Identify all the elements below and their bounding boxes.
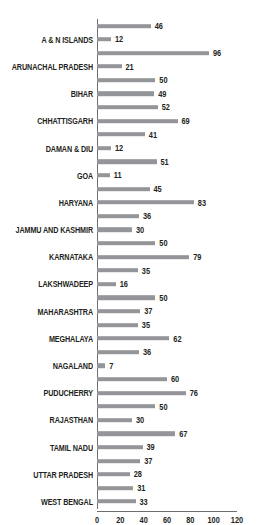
bar-row: 51	[0, 155, 259, 169]
bar	[97, 214, 139, 218]
category-label: KARNATAKA	[0, 252, 93, 261]
bar	[97, 187, 150, 191]
bar-group: 31	[97, 481, 145, 495]
bar-group: 49	[97, 87, 166, 101]
bar	[97, 499, 136, 503]
bar-row: GOA11	[0, 169, 259, 183]
bar	[97, 296, 155, 300]
bar-group: 33	[97, 495, 148, 509]
bar	[97, 309, 140, 313]
bar-value-label: 16	[120, 280, 128, 289]
bar-group: 51	[97, 155, 169, 169]
x-tick-label: 80	[186, 516, 194, 525]
category-label: ARUNACHAL PRADESH	[0, 62, 93, 71]
x-axis: 020406080100120	[0, 511, 259, 525]
bar-row: LAKSHWADEEP16	[0, 277, 259, 291]
bar-row: 96	[0, 46, 259, 60]
bar	[97, 228, 132, 232]
bar-row: HARYANA83	[0, 196, 259, 210]
bar-row: 52	[0, 101, 259, 115]
bar-row: WEST BENGAL33	[0, 495, 259, 509]
bar	[97, 173, 110, 177]
bar-value-label: 50	[159, 293, 167, 302]
bar	[97, 472, 130, 476]
bar-value-label: 33	[140, 497, 148, 506]
bar	[97, 37, 111, 41]
bar-row: 50	[0, 400, 259, 414]
bar-value-label: 60	[171, 375, 179, 384]
bar-group: 7	[97, 359, 113, 373]
bar-group: 35	[97, 318, 150, 332]
bar	[97, 445, 143, 449]
bar-group: 12	[97, 141, 123, 155]
category-label: JAMMU AND KASHMIR	[0, 225, 93, 234]
bar-value-label: 41	[149, 130, 157, 139]
bar-value-label: 37	[144, 456, 152, 465]
bar-value-label: 62	[173, 334, 181, 343]
bar-row: RAJASTHAN30	[0, 413, 259, 427]
bar-group: 76	[97, 386, 198, 400]
bar-row: JAMMU AND KASHMIR30	[0, 223, 259, 237]
bar-row: 45	[0, 182, 259, 196]
bar-group: 67	[97, 427, 187, 441]
category-label: BIHAR	[0, 89, 93, 98]
bar-row: DAMAN & DIU12	[0, 141, 259, 155]
bar-row: ARUNACHAL PRADESH21	[0, 60, 259, 74]
bar-value-label: 49	[158, 89, 166, 98]
bar-group: 36	[97, 345, 151, 359]
bar-value-label: 39	[147, 443, 155, 452]
category-label: RAJASTHAN	[0, 416, 93, 425]
bar-group: 36	[97, 209, 151, 223]
bar-group: 21	[97, 60, 134, 74]
bar-group: 30	[97, 223, 144, 237]
bar-group: 50	[97, 73, 168, 87]
bar-row: MEGHALAYA62	[0, 332, 259, 346]
bar-row: 50	[0, 73, 259, 87]
bar-group: 62	[97, 332, 182, 346]
x-tick-label: 100	[207, 516, 219, 525]
bar-value-label: 12	[115, 144, 123, 153]
bar-value-label: 7	[109, 361, 113, 370]
category-label: GOA	[0, 171, 93, 180]
bar-row: 50	[0, 291, 259, 305]
bar-value-label: 79	[193, 252, 201, 261]
bar-value-label: 83	[198, 198, 206, 207]
bar	[97, 241, 155, 245]
bar-row: 35	[0, 264, 259, 278]
bar-group: 69	[97, 114, 190, 128]
bar	[97, 391, 186, 395]
x-tick-label: 20	[116, 516, 124, 525]
bar	[97, 51, 209, 55]
bar-group: 16	[97, 277, 128, 291]
bar	[97, 255, 189, 259]
bar	[97, 432, 175, 436]
category-label: LAKSHWADEEP	[0, 280, 93, 289]
bar-value-label: 50	[159, 402, 167, 411]
bar-group: 30	[97, 413, 144, 427]
bar-value-label: 30	[136, 416, 144, 425]
bar-value-label: 21	[126, 62, 134, 71]
bar-value-label: 69	[182, 117, 190, 126]
bar	[97, 119, 178, 123]
category-label: CHHATTISGARH	[0, 116, 93, 125]
category-label: DAMAN & DIU	[0, 144, 93, 153]
bar	[97, 404, 155, 408]
bar-row: NAGALAND7	[0, 359, 259, 373]
bar-value-label: 37	[144, 307, 152, 316]
bar-value-label: 76	[190, 388, 198, 397]
bar	[97, 323, 138, 327]
bar-row: UTTAR PRADESH28	[0, 468, 259, 482]
category-label: HARYANA	[0, 198, 93, 207]
bar	[97, 24, 151, 28]
bar-value-label: 30	[136, 225, 144, 234]
category-label: WEST BENGAL	[0, 497, 93, 506]
bar-group: 50	[97, 400, 168, 414]
bar-group: 60	[97, 372, 179, 386]
bar-group: 37	[97, 454, 152, 468]
bar-row: 46	[0, 19, 259, 33]
bar	[97, 92, 154, 96]
bar-value-label: 67	[179, 429, 187, 438]
bar	[97, 268, 138, 272]
bar	[97, 418, 132, 422]
bar-row: CHHATTISGARH69	[0, 114, 259, 128]
